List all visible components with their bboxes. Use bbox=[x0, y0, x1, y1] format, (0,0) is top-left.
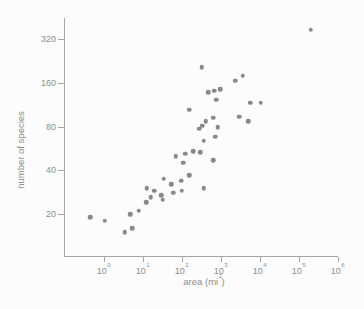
y-tick-mark bbox=[58, 127, 64, 128]
data-point bbox=[240, 73, 245, 78]
x-tick-mark bbox=[182, 257, 183, 262]
data-point bbox=[259, 100, 264, 105]
data-point bbox=[171, 191, 176, 196]
data-point bbox=[216, 125, 221, 130]
data-point bbox=[161, 176, 166, 181]
x-axis-title-text: area (mi bbox=[183, 276, 218, 287]
data-point bbox=[159, 193, 164, 198]
y-tick-label: 160 bbox=[24, 78, 56, 88]
data-point bbox=[199, 65, 204, 70]
data-point bbox=[183, 151, 188, 156]
x-tick-label: 103 bbox=[214, 263, 227, 276]
data-point bbox=[187, 173, 192, 178]
x-tick-mark bbox=[260, 257, 261, 262]
data-point bbox=[179, 178, 184, 183]
data-point bbox=[213, 135, 218, 140]
x-tick-mark bbox=[221, 257, 222, 262]
data-point bbox=[130, 226, 135, 231]
x-tick-exponent: 3 bbox=[224, 262, 227, 268]
y-tick-label: 80 bbox=[24, 122, 56, 132]
data-point bbox=[122, 230, 127, 235]
data-point bbox=[187, 108, 192, 113]
data-point bbox=[237, 115, 242, 120]
x-tick-label: 105 bbox=[292, 263, 305, 276]
x-tick-exponent: 6 bbox=[341, 262, 344, 268]
data-point bbox=[218, 87, 223, 92]
y-tick-mark bbox=[58, 170, 64, 171]
data-point bbox=[169, 182, 174, 187]
x-tick-exponent: 5 bbox=[302, 262, 305, 268]
data-point bbox=[204, 119, 209, 124]
x-tick-exponent: 4 bbox=[263, 262, 266, 268]
data-point bbox=[212, 88, 217, 93]
data-point bbox=[211, 115, 216, 120]
x-tick-mark bbox=[104, 257, 105, 262]
data-point bbox=[180, 188, 185, 193]
y-axis-line bbox=[64, 18, 65, 257]
data-point bbox=[152, 188, 157, 193]
x-axis-title: area (mi2) bbox=[183, 276, 224, 287]
data-point bbox=[181, 161, 186, 166]
x-tick-label: 101 bbox=[136, 263, 149, 276]
y-tick-label: 40 bbox=[24, 165, 56, 175]
data-point bbox=[160, 198, 165, 203]
species-area-scatter-plot: number of species area (mi2) 10010110210… bbox=[0, 0, 364, 309]
data-point bbox=[214, 98, 219, 103]
x-tick-label: 106 bbox=[331, 263, 344, 276]
x-tick-mark bbox=[338, 257, 339, 262]
x-tick-mark bbox=[143, 257, 144, 262]
data-point bbox=[201, 186, 206, 191]
data-point bbox=[136, 209, 141, 214]
data-point bbox=[198, 150, 203, 155]
data-point bbox=[145, 186, 150, 191]
x-axis-line bbox=[64, 256, 338, 257]
x-tick-exponent: 1 bbox=[146, 262, 149, 268]
y-tick-mark bbox=[58, 214, 64, 215]
data-point bbox=[88, 215, 93, 220]
x-tick-exponent: 0 bbox=[107, 262, 110, 268]
data-point bbox=[248, 100, 253, 105]
data-point bbox=[233, 79, 238, 84]
data-point bbox=[206, 90, 211, 95]
y-tick-mark bbox=[58, 39, 64, 40]
y-tick-mark bbox=[58, 83, 64, 84]
data-point bbox=[102, 218, 107, 223]
data-point bbox=[201, 138, 206, 143]
y-tick-label: 20 bbox=[24, 209, 56, 219]
data-point bbox=[211, 158, 216, 163]
x-tick-label: 102 bbox=[175, 263, 188, 276]
data-point bbox=[144, 200, 149, 205]
x-tick-mark bbox=[299, 257, 300, 262]
data-point bbox=[149, 195, 154, 200]
data-point bbox=[128, 212, 133, 217]
x-tick-exponent: 2 bbox=[185, 262, 188, 268]
data-point bbox=[309, 27, 314, 32]
x-tick-label: 100 bbox=[97, 263, 110, 276]
y-tick-label: 320 bbox=[24, 34, 56, 44]
data-point bbox=[197, 127, 202, 132]
x-tick-label: 104 bbox=[253, 263, 266, 276]
data-point bbox=[174, 154, 179, 159]
data-point bbox=[191, 149, 196, 154]
data-point bbox=[246, 119, 251, 124]
